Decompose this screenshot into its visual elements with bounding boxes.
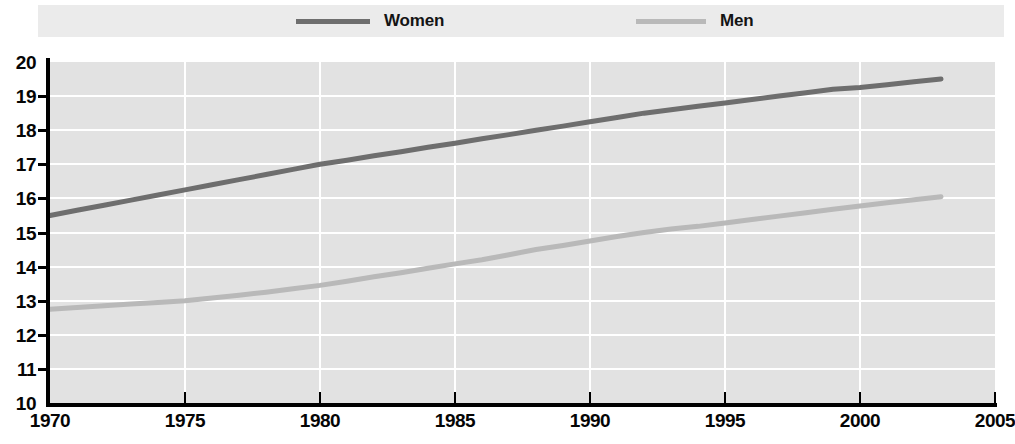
series-line-men bbox=[50, 197, 941, 310]
y-tick-label: 11 bbox=[0, 360, 36, 379]
y-tick-mark bbox=[38, 300, 47, 303]
x-tick-label: 2005 bbox=[975, 411, 1015, 430]
series-lines bbox=[50, 62, 995, 403]
x-tick-label: 1970 bbox=[30, 411, 70, 430]
y-tick-label: 18 bbox=[0, 121, 36, 140]
x-tick-mark bbox=[454, 392, 456, 404]
y-tick-label: 19 bbox=[0, 87, 36, 106]
x-tick-label: 1995 bbox=[705, 411, 745, 430]
x-tick-mark bbox=[184, 392, 186, 404]
y-tick-mark bbox=[38, 95, 47, 98]
chart-legend: Women Men bbox=[38, 5, 1004, 37]
x-tick-label: 1990 bbox=[570, 411, 610, 430]
legend-item-women[interactable]: Women bbox=[296, 5, 444, 37]
legend-item-men[interactable]: Men bbox=[636, 5, 753, 37]
y-tick-label: 20 bbox=[0, 53, 36, 72]
x-tick-label: 2000 bbox=[840, 411, 880, 430]
x-tick-label: 1975 bbox=[165, 411, 205, 430]
y-tick-label: 12 bbox=[0, 326, 36, 345]
legend-label-women: Women bbox=[384, 11, 444, 31]
x-tick-mark bbox=[859, 392, 861, 404]
legend-swatch-women-icon bbox=[296, 19, 370, 24]
x-tick-mark bbox=[589, 392, 591, 404]
y-tick-mark bbox=[38, 232, 47, 235]
x-tick-mark bbox=[994, 392, 996, 404]
x-tick-mark bbox=[724, 392, 726, 404]
y-tick-mark bbox=[38, 197, 47, 200]
y-tick-label: 17 bbox=[0, 155, 36, 174]
series-line-women bbox=[50, 79, 941, 215]
x-tick-mark bbox=[319, 392, 321, 404]
x-tick-label: 1980 bbox=[300, 411, 340, 430]
legend-label-men: Men bbox=[720, 11, 753, 31]
y-tick-mark bbox=[38, 163, 47, 166]
y-tick-mark bbox=[38, 129, 47, 132]
plot-area bbox=[50, 62, 995, 403]
y-tick-mark bbox=[38, 334, 47, 337]
y-tick-label: 15 bbox=[0, 224, 36, 243]
y-tick-label: 16 bbox=[0, 189, 36, 208]
x-tick-label: 1985 bbox=[435, 411, 475, 430]
y-tick-label: 13 bbox=[0, 292, 36, 311]
y-tick-mark bbox=[38, 368, 47, 371]
y-tick-mark bbox=[38, 266, 47, 269]
x-axis-line bbox=[46, 403, 997, 407]
y-tick-label: 14 bbox=[0, 258, 36, 277]
legend-swatch-men-icon bbox=[636, 19, 706, 24]
